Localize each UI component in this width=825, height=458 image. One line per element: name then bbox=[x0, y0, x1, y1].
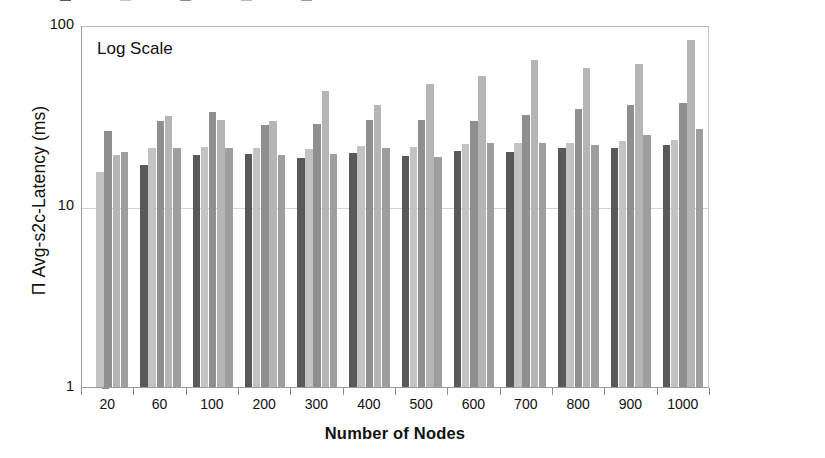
x-axis-tick-mark bbox=[709, 388, 710, 395]
chart-figure: Π Avg-s2c-Latency (ms) 100101 Log Scale … bbox=[0, 0, 825, 458]
bar bbox=[470, 121, 478, 387]
bar bbox=[643, 135, 651, 387]
x-axis-tick-labels: 20601002003004005006007008009001000 bbox=[81, 396, 709, 412]
bar-group bbox=[134, 27, 186, 387]
bar bbox=[253, 148, 261, 387]
bar-group bbox=[82, 27, 134, 387]
y-axis-tick-label: 100 bbox=[28, 16, 74, 32]
bar bbox=[382, 148, 390, 387]
x-axis-tick-label: 600 bbox=[447, 396, 499, 412]
bar bbox=[313, 124, 321, 387]
bar bbox=[357, 146, 365, 387]
bar-group bbox=[552, 27, 604, 387]
bar bbox=[148, 148, 156, 387]
bar bbox=[297, 158, 305, 387]
x-axis-tick-label: 500 bbox=[395, 396, 447, 412]
bar bbox=[173, 148, 181, 387]
bar bbox=[349, 153, 357, 387]
bar-group bbox=[239, 27, 291, 387]
bar bbox=[209, 112, 217, 387]
bar bbox=[374, 105, 382, 387]
legend-swatch bbox=[301, 0, 312, 1]
x-axis-tick-mark bbox=[395, 388, 396, 395]
bar bbox=[113, 155, 121, 387]
bar bbox=[663, 145, 671, 387]
x-axis-tick-label: 100 bbox=[186, 396, 238, 412]
bar bbox=[418, 120, 426, 387]
bar bbox=[506, 152, 514, 387]
x-axis-tick-mark bbox=[447, 388, 448, 395]
bar bbox=[514, 143, 522, 387]
bar-group bbox=[500, 27, 552, 387]
bar bbox=[434, 157, 442, 387]
bar bbox=[322, 91, 330, 387]
bar-group bbox=[448, 27, 500, 387]
bar-group bbox=[343, 27, 395, 387]
legend-swatch bbox=[241, 0, 252, 1]
bar bbox=[462, 144, 470, 387]
bar bbox=[261, 125, 269, 387]
bar bbox=[531, 60, 539, 387]
x-axis-tick-mark bbox=[186, 388, 187, 395]
legend-swatch bbox=[120, 0, 131, 1]
y-axis-tick-label: 1 bbox=[28, 378, 74, 394]
x-axis-tick-mark bbox=[81, 388, 82, 395]
bar bbox=[330, 154, 338, 387]
x-axis-tick-label: 400 bbox=[343, 396, 395, 412]
bar bbox=[679, 103, 687, 387]
x-axis-tick-mark bbox=[604, 388, 605, 395]
bar-group bbox=[396, 27, 448, 387]
bar bbox=[671, 140, 679, 387]
chart-legend-clipped bbox=[0, 0, 825, 9]
bar bbox=[539, 143, 547, 387]
bar bbox=[566, 143, 574, 387]
bar bbox=[140, 165, 148, 387]
x-axis-tick-label: 700 bbox=[500, 396, 552, 412]
x-axis-title: Number of Nodes bbox=[81, 424, 709, 443]
bar bbox=[619, 141, 627, 387]
legend-label bbox=[75, 0, 94, 1]
bar bbox=[426, 84, 434, 387]
bar bbox=[454, 151, 462, 387]
bar bbox=[245, 154, 253, 387]
x-axis-tick-label: 60 bbox=[133, 396, 185, 412]
bar bbox=[687, 40, 695, 387]
legend-item bbox=[180, 0, 214, 1]
bar-group bbox=[187, 27, 239, 387]
x-axis-tick-label: 900 bbox=[604, 396, 656, 412]
legend-item bbox=[301, 0, 335, 1]
bar-group bbox=[291, 27, 343, 387]
x-axis-tick-label: 1000 bbox=[657, 396, 709, 412]
bar bbox=[217, 120, 225, 387]
x-axis-tick-label: 300 bbox=[290, 396, 342, 412]
bar bbox=[225, 148, 233, 387]
legend-item bbox=[120, 0, 154, 1]
bar bbox=[121, 152, 129, 387]
bar bbox=[410, 147, 418, 387]
bar bbox=[402, 156, 410, 387]
bar bbox=[269, 121, 277, 387]
bar bbox=[522, 115, 530, 387]
bar bbox=[591, 145, 599, 387]
bar bbox=[157, 121, 165, 387]
bar bbox=[278, 155, 286, 387]
x-axis-tick-label: 20 bbox=[81, 396, 133, 412]
x-axis-tick-label: 200 bbox=[238, 396, 290, 412]
legend-label bbox=[195, 0, 214, 1]
y-axis-ticks: 100101 bbox=[28, 0, 74, 458]
x-axis-tick-mark bbox=[343, 388, 344, 395]
bar bbox=[165, 116, 173, 387]
bar bbox=[575, 109, 583, 387]
legend-label bbox=[316, 0, 335, 1]
legend-label bbox=[256, 0, 275, 1]
bar bbox=[487, 143, 495, 387]
bar bbox=[635, 64, 643, 387]
y-axis-tick-label: 10 bbox=[28, 197, 74, 213]
bar bbox=[193, 155, 201, 387]
bar bbox=[611, 148, 619, 387]
bar-groups bbox=[82, 27, 709, 387]
plot-area: Log Scale bbox=[81, 26, 709, 388]
bar bbox=[696, 129, 704, 387]
bar bbox=[96, 172, 104, 387]
bar bbox=[104, 131, 112, 387]
